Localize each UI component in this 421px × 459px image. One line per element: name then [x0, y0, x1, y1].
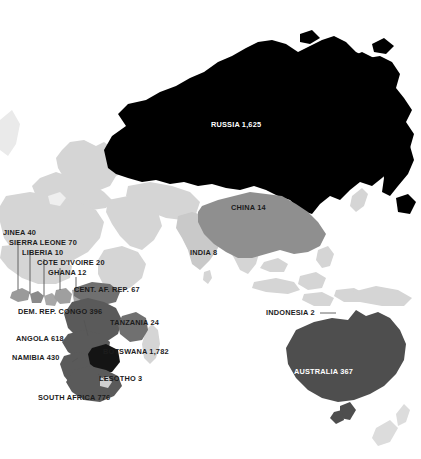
country-philippines	[316, 246, 334, 268]
map-label-botswana: BOTSWANA 1,782	[103, 347, 169, 357]
map-label-south-africa: SOUTH AFRICA 776	[38, 393, 110, 403]
region-guinea[interactable]	[10, 288, 30, 302]
map-label-angola: ANGOLA 618	[16, 334, 64, 344]
map-label-liberia: LIBERIA 10	[22, 248, 63, 258]
map-label-dem-rep-congo: DEM. REP. CONGO 396	[18, 307, 102, 317]
country-sri-lanka	[203, 270, 212, 284]
map-label-cent-af-rep: CENT. AF. REP. 67	[74, 285, 140, 295]
map-label-sierra-leone: SIERRA LEONE 70	[9, 238, 77, 248]
map-label-indonesia: INDONESIA 2	[266, 308, 315, 318]
map-label-namibia: NAMIBIA 430	[12, 353, 60, 363]
choropleth-map: RUSSIA 1,625 CHINA 14 INDIA 8 INDONESIA …	[0, 0, 421, 459]
map-label-guinea: JINEA 40	[3, 228, 36, 238]
map-label-ghana: GHANA 12	[48, 268, 86, 278]
country-new-guinea	[352, 286, 412, 306]
map-label-cote-divoire: COTE D'IVOIRE 20	[37, 258, 105, 268]
region-sierra-leone[interactable]	[30, 291, 44, 303]
country-northwest-fragment	[0, 110, 20, 156]
map-label-india: INDIA 8	[190, 248, 217, 258]
country-japan	[350, 188, 368, 212]
country-new-zealand	[372, 404, 410, 446]
map-geometry	[0, 0, 421, 459]
map-label-china: CHINA 14	[231, 203, 266, 213]
country-indonesia	[252, 258, 366, 306]
map-label-australia: AUSTRALIA 367	[294, 367, 353, 377]
map-label-lesotho: LESOTHO 3	[99, 374, 142, 384]
map-label-tanzania: TANZANIA 24	[110, 318, 159, 328]
map-label-russia: RUSSIA 1,625	[211, 120, 261, 130]
